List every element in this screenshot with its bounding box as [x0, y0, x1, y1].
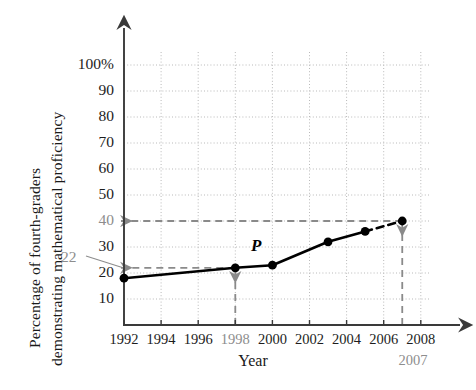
- series-segment: [272, 242, 328, 265]
- series-segment: [235, 265, 272, 268]
- chart-figure: Percentage of fourth-graders demonstrati…: [0, 0, 476, 390]
- gridlines: [124, 52, 430, 325]
- data-point: [398, 217, 407, 226]
- plot-canvas: [0, 0, 476, 390]
- data-point: [324, 237, 333, 246]
- data-point: [361, 227, 370, 236]
- data-point: [268, 261, 277, 270]
- data-series-line: [124, 221, 402, 278]
- annotation-leader-line: [86, 256, 123, 268]
- axes: [123, 28, 460, 325]
- data-point: [120, 274, 129, 283]
- data-point: [231, 263, 240, 272]
- series-segment: [328, 231, 365, 241]
- leader-line-22: [86, 256, 123, 268]
